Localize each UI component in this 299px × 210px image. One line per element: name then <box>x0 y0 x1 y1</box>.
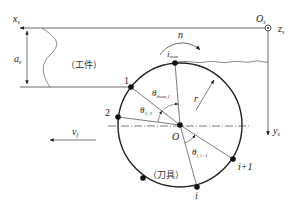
point-extra <box>140 175 146 181</box>
svg-text:vf: vf <box>72 126 79 138</box>
svg-text:r: r <box>194 93 198 104</box>
svg-text:xs: xs <box>12 13 20 25</box>
workpiece-label: （工件） <box>66 59 102 70</box>
machined-surface-line <box>178 61 268 63</box>
rotation-arrow <box>160 43 200 55</box>
svg-text:n: n <box>178 29 183 40</box>
tool-label: （刀具） <box>148 170 184 180</box>
svg-text:2: 2 <box>105 107 110 118</box>
point-imax <box>172 60 178 66</box>
center-point <box>177 122 183 128</box>
svg-text:i+1: i+1 <box>238 161 253 172</box>
svg-text:θi, i+1: θi, i+1 <box>192 147 208 159</box>
svg-text:θimax,1: θimax,1 <box>152 88 170 100</box>
radius-arrow <box>196 80 214 110</box>
svg-text:zs: zs <box>277 23 285 35</box>
svg-text:θ1, 2: θ1, 2 <box>140 105 152 117</box>
svg-text:Os: Os <box>256 13 266 25</box>
svg-text:O: O <box>172 131 179 142</box>
point-1 <box>128 84 134 90</box>
point-2 <box>115 114 121 120</box>
svg-text:1: 1 <box>124 75 129 86</box>
svg-text:ys: ys <box>272 125 280 137</box>
svg-text:ae: ae <box>14 53 22 65</box>
milling-diagram: xs ae （工件） Os zs ys n imax r θimax,1 θ1,… <box>0 0 299 210</box>
point-i <box>194 184 200 190</box>
svg-text:i: i <box>195 190 198 201</box>
point-i1 <box>230 156 236 162</box>
break-line-left <box>42 28 57 87</box>
svg-text:imax: imax <box>167 49 179 59</box>
